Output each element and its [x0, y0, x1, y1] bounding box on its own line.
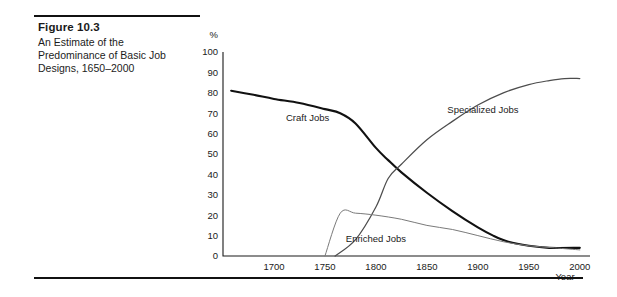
y-axis-tick-label: 40	[207, 169, 218, 180]
figure-caption-body: An Estimate of the Predominance of Basic…	[38, 36, 188, 74]
y-axis-tick-label: 10	[207, 230, 218, 241]
x-axis-tick-label: 1850	[416, 261, 437, 272]
series-label-craft: Craft Jobs	[286, 112, 330, 123]
x-axis-tick-label: 1750	[314, 261, 335, 272]
series-line-craft	[231, 91, 580, 248]
y-axis-tick-label: 60	[207, 128, 218, 139]
y-axis-tick-labels: 0102030405060708090100	[202, 46, 218, 261]
y-axis-unit-label: %	[210, 29, 219, 40]
y-axis-tick-label: 50	[207, 148, 218, 159]
y-axis-tick-label: 30	[207, 189, 218, 200]
top-rule	[34, 15, 200, 17]
series-label-enriched: Enriched Jobs	[346, 233, 406, 244]
x-axis-tick-label: 1950	[518, 261, 539, 272]
bottom-rule	[34, 277, 583, 279]
chart-plot-area: 0102030405060708090100 % 170017501800185…	[190, 18, 610, 280]
x-axis-tick-label: 1900	[467, 261, 488, 272]
figure-caption: Figure 10.3 An Estimate of the Predomina…	[38, 20, 188, 74]
x-axis-tick-label: 1700	[263, 261, 284, 272]
y-axis-tick-label: 0	[213, 250, 218, 261]
y-axis-tick-label: 90	[207, 67, 218, 78]
x-axis-tick-label: 1800	[365, 261, 386, 272]
line-chart-svg: 0102030405060708090100 % 170017501800185…	[190, 18, 610, 280]
x-axis-tick-labels: 1700175018001850190019502000	[263, 261, 590, 272]
y-axis-tick-label: 20	[207, 210, 218, 221]
y-axis-tick-label: 100	[202, 46, 218, 57]
series-lines-group	[231, 78, 580, 256]
figure-caption-title: Figure 10.3	[38, 20, 188, 34]
figure-10-3: Figure 10.3 An Estimate of the Predomina…	[0, 0, 617, 297]
y-axis-tick-label: 80	[207, 87, 218, 98]
series-label-specialized: Specialized Jobs	[447, 104, 519, 115]
y-axis-tick-label: 70	[207, 108, 218, 119]
